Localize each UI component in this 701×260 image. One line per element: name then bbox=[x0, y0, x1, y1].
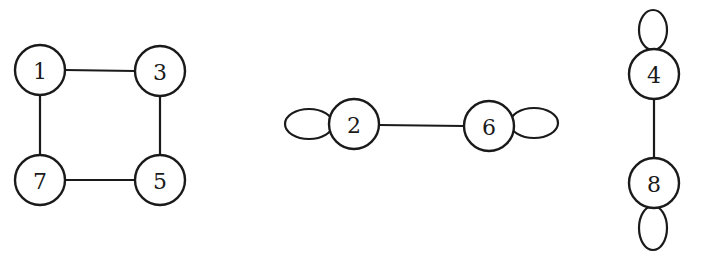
node-4: 4 bbox=[629, 49, 679, 99]
node-2: 2 bbox=[329, 99, 379, 149]
node-1: 1 bbox=[15, 45, 65, 95]
node-label: 1 bbox=[33, 59, 47, 84]
node-5: 5 bbox=[135, 155, 185, 205]
self-loop-2 bbox=[285, 109, 333, 139]
node-6: 6 bbox=[464, 101, 514, 151]
node-label: 5 bbox=[153, 169, 167, 194]
graph-diagram: 1 3 7 5 2 6 bbox=[0, 0, 701, 260]
self-loop-4 bbox=[639, 10, 667, 50]
self-loop-8 bbox=[639, 206, 667, 250]
component-horizontal-pair: 2 6 bbox=[285, 99, 558, 151]
edge-2-6 bbox=[379, 125, 464, 126]
node-label: 4 bbox=[647, 63, 661, 88]
node-label: 6 bbox=[482, 115, 496, 140]
edge-1-3 bbox=[65, 70, 135, 71]
self-loop-6 bbox=[510, 108, 558, 138]
node-8: 8 bbox=[629, 158, 679, 208]
node-label: 2 bbox=[347, 113, 361, 138]
node-label: 3 bbox=[153, 60, 167, 85]
node-label: 8 bbox=[647, 172, 661, 197]
node-7: 7 bbox=[15, 155, 65, 205]
node-3: 3 bbox=[135, 46, 185, 96]
component-vertical-pair: 4 8 bbox=[629, 10, 679, 250]
node-label: 7 bbox=[33, 169, 47, 194]
component-square-cycle: 1 3 7 5 bbox=[15, 45, 185, 205]
